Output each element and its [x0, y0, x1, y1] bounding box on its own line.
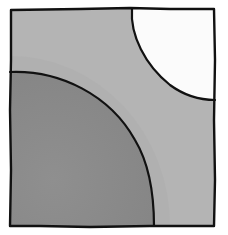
diagram-svg — [0, 0, 228, 235]
diagram-canvas — [0, 0, 228, 235]
